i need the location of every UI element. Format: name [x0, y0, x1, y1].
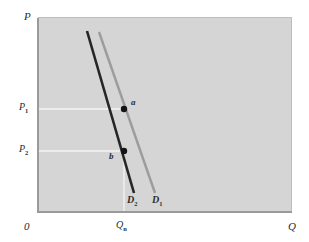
curve-label-D2-sub: 2 [134, 200, 137, 207]
curve-label-D1: D1 [152, 195, 162, 207]
panel-right-border [291, 17, 292, 212]
y-axis-label: P [24, 11, 31, 22]
origin-label: 0 [24, 221, 30, 232]
point-a-marker [121, 106, 127, 112]
point-b-label: b [109, 152, 114, 161]
x-tick-Qn-sub: n [123, 225, 127, 232]
x-axis [37, 211, 292, 213]
y-axis [37, 18, 39, 213]
point-a-label: a [131, 98, 136, 107]
point-b-marker [121, 148, 127, 154]
plot-area [38, 18, 291, 211]
y-tick-P2-sub: 2 [25, 149, 28, 156]
x-axis-label: Q [288, 221, 296, 232]
x-tick-label-Qn: Qn [116, 220, 127, 232]
y-tick-label-P1: P1 [19, 102, 28, 114]
y-tick-P1-sub: 1 [25, 107, 28, 114]
curve-label-D1-sub: 1 [159, 200, 162, 207]
plot-canvas [38, 18, 291, 211]
panel-top-border [38, 17, 291, 18]
curve-label-D2: D2 [127, 195, 137, 207]
demand-curve-figure: P Q 0 P1 P2 Qn D2 D1 a b [0, 0, 309, 242]
y-tick-label-P2: P2 [19, 144, 28, 156]
